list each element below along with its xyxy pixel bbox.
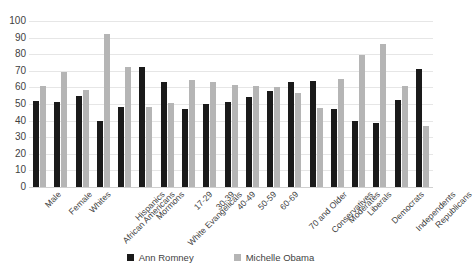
bar bbox=[295, 93, 301, 187]
bar-group bbox=[348, 21, 369, 187]
bar-group bbox=[157, 21, 178, 187]
y-tick-label: 60 bbox=[15, 82, 26, 92]
bar bbox=[317, 108, 323, 187]
bar-group bbox=[242, 21, 263, 187]
bar bbox=[331, 109, 337, 187]
legend-label: Michelle Obama bbox=[246, 252, 315, 263]
bar bbox=[274, 87, 280, 187]
y-axis: 1009080706050403020100 bbox=[0, 21, 26, 187]
bar-group bbox=[135, 21, 156, 187]
bar bbox=[359, 55, 365, 187]
bar bbox=[97, 121, 103, 187]
bar bbox=[402, 86, 408, 187]
x-axis-category-labels: MaleFemaleWhitesAfrican AmericansHispani… bbox=[29, 188, 433, 250]
bar bbox=[76, 96, 82, 187]
bar-group bbox=[263, 21, 284, 187]
bar bbox=[61, 72, 67, 187]
bar bbox=[33, 101, 39, 187]
x-axis-tick: Hispanics bbox=[114, 188, 135, 250]
bar-group bbox=[369, 21, 390, 187]
legend-label: Ann Romney bbox=[139, 252, 194, 263]
bar-group bbox=[412, 21, 433, 187]
y-tick-label: 30 bbox=[15, 132, 26, 142]
bar bbox=[352, 121, 358, 187]
bar bbox=[83, 90, 89, 187]
bar bbox=[161, 82, 167, 187]
legend-swatch-icon bbox=[234, 254, 241, 261]
bar-group bbox=[199, 21, 220, 187]
x-axis-tick: Liberals bbox=[348, 188, 369, 250]
x-axis-tick: 40-49 bbox=[220, 188, 241, 250]
bar bbox=[54, 102, 60, 187]
x-axis-tick: Independents bbox=[391, 188, 412, 250]
bar bbox=[225, 102, 231, 187]
bar bbox=[146, 107, 152, 188]
bar bbox=[125, 67, 131, 187]
legend-item[interactable]: Ann Romney bbox=[127, 252, 194, 263]
x-axis-tick: 50-59 bbox=[242, 188, 263, 250]
y-tick-label: 20 bbox=[15, 149, 26, 159]
x-axis-tick: 70 and Older bbox=[284, 188, 305, 250]
x-axis-tick: Mormons bbox=[135, 188, 156, 250]
bar-group bbox=[220, 21, 241, 187]
bar-group bbox=[114, 21, 135, 187]
x-axis-tick: Whites bbox=[72, 188, 93, 250]
x-axis-tick: Male bbox=[29, 188, 50, 250]
x-axis-tick: 17-29 bbox=[178, 188, 199, 250]
bar-group bbox=[327, 21, 348, 187]
bar bbox=[253, 86, 259, 187]
bar-groups bbox=[29, 21, 433, 187]
y-tick-label: 10 bbox=[15, 165, 26, 175]
x-axis-tick: Moderates bbox=[327, 188, 348, 250]
bar-group bbox=[391, 21, 412, 187]
bar bbox=[338, 79, 344, 187]
bar bbox=[395, 100, 401, 187]
bar bbox=[168, 103, 174, 187]
y-tick-label: 80 bbox=[15, 49, 26, 59]
y-tick-label: 0 bbox=[20, 182, 26, 192]
x-axis-tick: 60-69 bbox=[263, 188, 284, 250]
bar bbox=[423, 126, 429, 187]
bar bbox=[40, 86, 46, 187]
x-axis-tick: Republicans bbox=[412, 188, 433, 250]
y-tick-label: 100 bbox=[9, 16, 26, 26]
bar-group bbox=[178, 21, 199, 187]
bar bbox=[210, 82, 216, 187]
y-tick-label: 50 bbox=[15, 99, 26, 109]
bar-group bbox=[305, 21, 326, 187]
y-tick-label: 40 bbox=[15, 116, 26, 126]
bar bbox=[118, 107, 124, 187]
x-axis-tick: Democrats bbox=[369, 188, 390, 250]
legend-item[interactable]: Michelle Obama bbox=[234, 252, 315, 263]
bar bbox=[416, 69, 422, 187]
bar bbox=[288, 82, 294, 187]
bar-group bbox=[29, 21, 50, 187]
bar bbox=[267, 91, 273, 187]
bar bbox=[104, 34, 110, 187]
bar bbox=[182, 109, 188, 187]
y-tick-label: 90 bbox=[15, 33, 26, 43]
x-axis-tick: 30-39 bbox=[199, 188, 220, 250]
y-tick-label: 70 bbox=[15, 66, 26, 76]
bar bbox=[139, 67, 145, 187]
bar bbox=[246, 97, 252, 187]
bar-group bbox=[50, 21, 71, 187]
x-axis-tick: Conservatives bbox=[305, 188, 326, 250]
bar bbox=[232, 85, 238, 187]
bar bbox=[203, 104, 209, 187]
bar-group bbox=[72, 21, 93, 187]
legend-swatch-icon bbox=[127, 254, 134, 261]
bar bbox=[310, 81, 316, 187]
x-axis-tick: African Americans bbox=[93, 188, 114, 250]
x-axis-tick: Female bbox=[50, 188, 71, 250]
bar bbox=[189, 80, 195, 187]
bar bbox=[380, 44, 386, 187]
chart-legend: Ann RomneyMichelle Obama bbox=[0, 252, 441, 263]
bar bbox=[373, 123, 379, 187]
x-axis-tick: White Evangelicals bbox=[157, 188, 178, 250]
bar-group bbox=[93, 21, 114, 187]
bar-group bbox=[284, 21, 305, 187]
